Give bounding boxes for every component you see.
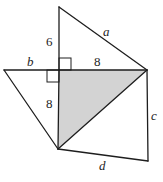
label-six: 6 [46,34,53,49]
label-eight-top: 8 [94,54,101,69]
label-c: c [151,108,157,123]
label-d: d [99,158,106,173]
right-angle-mark-upper [59,58,71,70]
label-b: b [27,54,34,69]
label-a: a [103,24,110,39]
geometry-diagram: a 6 b 8 8 c d [0,0,163,182]
right-angle-mark-lower [47,70,59,82]
label-eight-left: 8 [46,96,53,111]
edge-c [147,70,148,161]
